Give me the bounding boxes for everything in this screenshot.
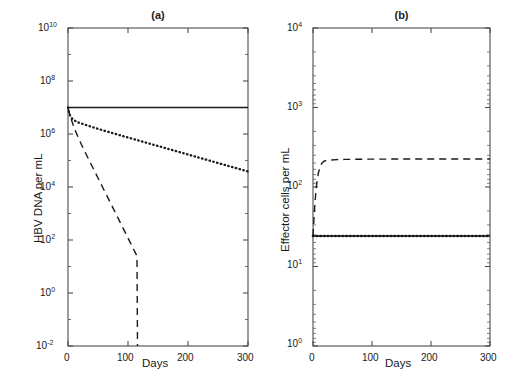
- panel-b-frame: [313, 28, 490, 346]
- panel-b-xticks: [313, 28, 490, 346]
- panel-b-yticks-minor: [313, 52, 490, 342]
- figure-container: (a) HBV DNA per mL Days 1010 108 106 104…: [0, 0, 520, 381]
- panel-b: (b) Effector cells per mL Days 104 103 1…: [0, 0, 520, 381]
- panel-b-yticks-major: [313, 28, 490, 346]
- panel-b-series-dashed: [313, 159, 490, 236]
- panel-b-plot: [0, 0, 520, 381]
